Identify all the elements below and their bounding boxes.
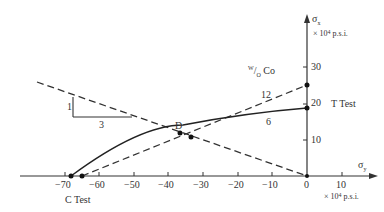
x-tick-label: −40 (158, 180, 174, 190)
wo-co-dashed-line (82, 85, 307, 176)
x-tick-label: −10 (262, 180, 278, 190)
x-tick-label: 10 (336, 180, 346, 190)
y-tick-label: 20 (311, 98, 321, 108)
point-y25 (305, 83, 310, 88)
x-axis-label: σy (358, 160, 366, 172)
x-tick-label: −30 (193, 180, 209, 190)
x-tick-label: −20 (228, 180, 244, 190)
x-axis-unit: × 104 p.s.i. (324, 193, 359, 201)
x-tick-label: −70 (55, 180, 71, 190)
triangle-run-label: 3 (99, 120, 104, 130)
x-tick-label: −50 (124, 180, 140, 190)
point-origin (305, 174, 309, 178)
label-6: 6 (266, 117, 271, 127)
label-12: 12 (261, 90, 271, 100)
c-test-label: C Test (65, 195, 91, 205)
x-tick-label: −60 (89, 180, 105, 190)
slope-triangle (73, 97, 132, 117)
point-x-66 (80, 174, 85, 179)
point-y19 (305, 106, 310, 111)
t-test-label: T Test (331, 99, 356, 109)
point-x-70 (69, 174, 74, 179)
point-intersect (189, 135, 194, 140)
y-axis-label: σx (312, 14, 320, 26)
y-axis-arrow-icon (304, 14, 310, 23)
y-tick-label: 30 (311, 62, 321, 72)
point-d-label: D (175, 121, 182, 131)
wo-co-label: W/O Co (248, 66, 275, 78)
y-axis-unit: × 104 p.s.i. (313, 30, 348, 38)
triangle-rise-label: 1 (67, 102, 72, 112)
y-tick-label: 10 (311, 135, 321, 145)
x-axis-arrow-icon (369, 173, 378, 179)
point-d (178, 131, 183, 136)
x-tick-label: 0 (304, 180, 309, 190)
